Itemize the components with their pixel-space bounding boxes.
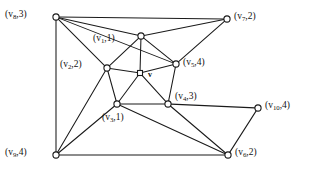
graph-vertex-v2 [104,65,110,71]
graph-vertex-v1 [138,33,144,39]
vertex-label-v10: (v10,4) [265,101,290,112]
vertex-label-v9: (v9,4) [5,148,27,159]
nodes-layer [53,14,261,158]
vertex-label-v8: (v8,3) [5,10,27,21]
vertex-label-v5: (v5,4) [183,58,205,69]
label-open-paren: (v [60,59,68,69]
graph-vertex-v7 [224,16,230,22]
label-open-paren: (v [234,11,242,21]
label-open-paren: (v [102,112,110,122]
vertex-label-v: v [148,71,152,79]
graph-vertex-v6 [225,152,231,158]
graph-vertex-v5 [173,61,179,67]
graph-edge [140,39,141,70]
graph-edge [119,75,138,101]
graph-edge [171,104,255,108]
vertex-label-v3: (v3,1) [102,113,124,124]
graph-edge [59,18,173,63]
label-value: 3) [189,91,197,101]
graph-edge [143,38,173,62]
label-open-paren: (v [235,147,243,157]
label-open-paren: (v [93,33,101,43]
label-value: 2) [249,147,257,157]
label-value: 1) [107,33,115,43]
label-open-paren: (v [5,147,13,157]
vertex-label-v7: (v7,2) [234,12,256,23]
label-open-paren: (v [265,100,273,110]
graph-vertex-v4 [165,101,171,107]
edges-layer [56,17,256,155]
label-open-paren: (v [5,9,13,19]
graph-figure: (v8,3)(v7,2)(v1,1)(v5,4)(v2,2)(v3,1)(v4,… [0,0,323,178]
label-value: 4) [197,57,205,67]
label-value: 1) [116,112,124,122]
vertex-label-v2: (v2,2) [60,60,82,71]
graph-edge [142,75,166,101]
graph-edge [170,106,225,153]
label-value: 3) [19,9,27,19]
graph-edge [110,68,137,72]
graph-vertex-v8 [53,14,59,20]
graph-canvas [0,0,323,178]
label-value: 4) [19,147,27,157]
graph-vertex-v10 [255,105,261,111]
graph-edge [120,105,225,153]
vertex-label-v4: (v4,3) [175,92,197,103]
graph-edge [144,20,224,36]
graph-edge [59,17,224,19]
graph-vertex-v9 [53,152,59,158]
graph-vertex-v3 [114,101,120,107]
label-value: 2) [248,11,256,21]
graph-edge [58,71,106,153]
label-subscript: 10 [273,104,280,111]
label-value: 2) [74,59,82,69]
graph-edge [108,71,116,101]
graph-vertex-v [138,71,143,76]
vertex-label-v1: (v1,1) [93,34,115,45]
label-open-paren: (v [183,57,191,67]
label-value: 4) [282,100,290,110]
label-open-paren: (v [175,91,183,101]
vertex-label-v6: (v6,2) [235,148,257,159]
